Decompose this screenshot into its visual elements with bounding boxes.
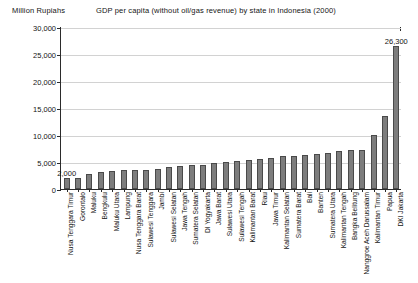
x-axis-category-label: Kalimantan Timur: [375, 192, 382, 243]
bar: [268, 158, 274, 189]
x-axis-category-label: Gorontalo: [80, 192, 87, 221]
bar: [280, 156, 286, 188]
x-axis-category-label: Sulawesi Selatan: [171, 192, 178, 243]
bar-slot: [72, 28, 83, 189]
bar-slot: [84, 28, 95, 189]
y-axis-tick-label: 0: [52, 185, 56, 194]
bar: [155, 169, 161, 188]
bar: [189, 165, 195, 188]
bar-slot: [266, 28, 277, 189]
bar-slot: [163, 28, 174, 189]
bar-value-label: 26,300: [385, 37, 408, 46]
bar-slot: [243, 28, 254, 189]
bar-slot: [232, 28, 243, 189]
x-axis-category-label: DKI Jakarta: [398, 192, 405, 226]
x-axis-category-label: Maluku Utara: [114, 192, 121, 231]
bar: [143, 170, 149, 189]
bar: [132, 170, 138, 189]
bar-slot: [277, 28, 288, 189]
bar: [121, 170, 127, 188]
bar: [86, 174, 92, 188]
x-axis-category-labels: Nusa Tenggara TimurGorontaloMalukuBengku…: [60, 192, 401, 280]
bar: [314, 154, 320, 188]
bar: [211, 163, 217, 188]
bar-slot: [61, 28, 72, 189]
x-axis-category-label: Nanggroe Aceh Darussalam: [364, 192, 371, 274]
y-axis-tick-label: 15,000: [33, 104, 56, 113]
bar-slot: [118, 28, 129, 189]
x-axis-category-label: Sulawesi Tenggara: [148, 192, 155, 248]
x-axis-category-label: Nusa Tenggara Barat: [136, 192, 143, 254]
bar: [166, 167, 172, 188]
gdp-bar-chart: Million Rupiahs GDP per capita (without …: [0, 0, 418, 283]
x-axis-category-label: Sumatera Barat: [296, 192, 303, 238]
x-axis-category-label: Riau: [262, 192, 269, 206]
x-axis-category-label: Banten: [318, 192, 325, 213]
bar: [257, 159, 263, 189]
x-axis-category-label: Jawa Barat: [216, 192, 223, 225]
bar-slot: [357, 28, 368, 189]
x-axis-category-label: DI Yogyakarta: [205, 192, 212, 233]
bar: [64, 178, 70, 189]
bar-slot: [186, 28, 197, 189]
bar-slot: [141, 28, 152, 189]
x-axis-category-label: Lampung: [125, 192, 132, 220]
bar: [336, 151, 342, 188]
x-axis-category-label: Papua: [387, 192, 394, 211]
bar: [359, 150, 365, 189]
y-axis-tick-label: 20,000: [33, 77, 56, 86]
y-axis-tick-label: 30,000: [33, 23, 56, 32]
x-axis-category-label: Sumatera Selatan: [193, 192, 200, 245]
bar-slot: [311, 28, 322, 189]
bar-slot: [106, 28, 117, 189]
x-axis-category-label: Bengkulu: [102, 192, 109, 220]
x-axis-category-label: Kalimantan Selatan: [284, 192, 291, 249]
bar: [393, 46, 399, 188]
bar-slot: [152, 28, 163, 189]
y-axis-tick-mark: [57, 190, 61, 191]
x-axis-category-label: Jawa Timur: [273, 192, 280, 226]
bar: [98, 172, 104, 188]
x-axis-category-label: Sulawesi Utara: [227, 192, 234, 236]
bar-slot: [300, 28, 311, 189]
x-axis-category-label: Sumatera Utara: [330, 192, 337, 239]
bar-slot: [368, 28, 379, 189]
bar-slot: [129, 28, 140, 189]
bar: [75, 178, 81, 189]
bar-value-label: 2,000: [57, 169, 76, 178]
bar-slot: [334, 28, 345, 189]
x-axis-category-label: Bali: [307, 192, 314, 203]
x-axis-category-label: Nusa Tenggara Timur: [68, 192, 75, 255]
bar-slot: [288, 28, 299, 189]
bar: [348, 150, 354, 188]
bar: [382, 116, 388, 189]
bar: [223, 162, 229, 189]
bar-slot: [220, 28, 231, 189]
plot-area: 2,00026,300: [60, 28, 401, 190]
x-axis-category-label: Kalimantan Tengah: [341, 192, 348, 248]
bar-slot: [95, 28, 106, 189]
bar-slot: [345, 28, 356, 189]
y-axis-title: Million Rupiahs: [12, 6, 65, 15]
y-axis-tick-label: 10,000: [33, 131, 56, 140]
bar: [325, 153, 331, 189]
bar-slot: [322, 28, 333, 189]
x-axis-category-label: Maluku: [91, 192, 98, 213]
chart-title: GDP per capita (without oil/gas revenue)…: [96, 6, 336, 15]
bar: [177, 166, 183, 188]
bar-slot: [197, 28, 208, 189]
bar: [371, 135, 377, 189]
bar: [109, 171, 115, 188]
bar: [234, 161, 240, 189]
bar: [302, 155, 308, 188]
bar-slot: [254, 28, 265, 189]
bar-slot: [175, 28, 186, 189]
x-axis-category-label: Jambi: [159, 192, 166, 210]
bar-series: [61, 28, 401, 189]
x-axis-category-label: Bangka Belitung: [352, 192, 359, 240]
bar: [200, 165, 206, 189]
y-axis-tick-label: 25,000: [33, 50, 56, 59]
y-axis-tick-label: 5,000: [37, 158, 56, 167]
bar: [246, 160, 252, 188]
bar-slot: [391, 28, 402, 189]
